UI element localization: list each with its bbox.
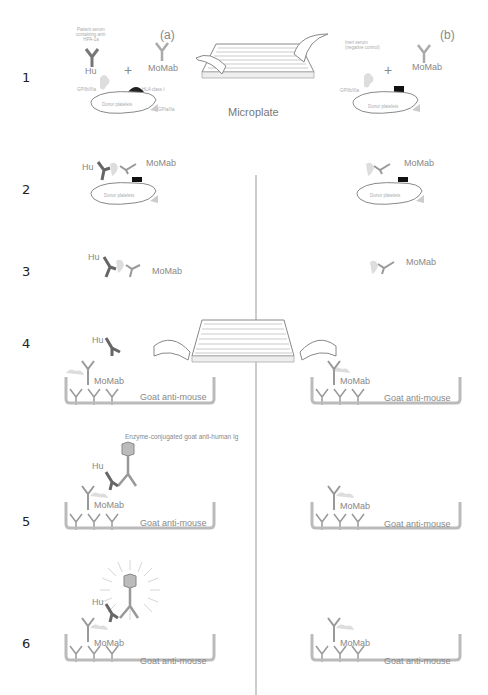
momab-label: MoMab <box>146 158 176 168</box>
inert-serum-label: Inert serum (negative control) <box>345 40 385 50</box>
momab-label: MoMab <box>340 501 370 511</box>
donor-platelets-label: Donor platelets <box>368 104 398 109</box>
goat-anti-mouse-label: Goat anti-mouse <box>140 656 207 666</box>
well-icon <box>308 612 464 662</box>
goat-anti-mouse-label: Goat anti-mouse <box>140 518 207 528</box>
enzyme-conjugate-label: Enzyme-conjugated goat anti-human Ig <box>125 433 238 440</box>
panel-label-b: (b) <box>440 28 455 42</box>
goat-anti-mouse-label: Goat anti-mouse <box>384 656 451 666</box>
donor-platelet-icon <box>88 72 162 114</box>
hu-label: Hu <box>92 461 104 471</box>
donor-platelet-icon <box>354 175 428 205</box>
hu-label: Hu <box>88 252 100 262</box>
step-number-4: 4 <box>22 336 30 351</box>
momab-label: MoMab <box>406 257 436 267</box>
hu-label: Hu <box>92 597 104 607</box>
patient-serum-label: Patient serum containing anti-HPA-1a <box>74 27 108 42</box>
goat-anti-mouse-label: Goat anti-mouse <box>384 519 451 529</box>
arrow-left-icon <box>192 50 232 80</box>
step-number-6: 6 <box>22 636 30 651</box>
mouse-antibody-icon <box>154 42 170 62</box>
momab-label: MoMab <box>340 376 370 386</box>
human-antibody-icon <box>104 336 124 356</box>
donor-platelets-label: Donor platelets <box>370 193 400 198</box>
well-icon <box>62 612 218 662</box>
panel-divider <box>255 175 257 695</box>
momab-label: MoMab <box>94 500 124 510</box>
momab-label: MoMab <box>340 638 370 648</box>
arrow-right-icon <box>292 30 332 60</box>
complex-icon <box>366 258 406 278</box>
momab-label: MoMab <box>94 376 124 386</box>
microplate-label: Microplate <box>228 106 279 118</box>
momab-label: MoMab <box>94 638 124 648</box>
goat-anti-mouse-label: Goat anti-mouse <box>140 392 207 402</box>
step-number-1: 1 <box>22 70 30 85</box>
step-number-2: 2 <box>22 182 30 197</box>
human-antibody-icon <box>84 48 100 68</box>
panel-label-a: (a) <box>160 28 175 42</box>
step-number-5: 5 <box>22 514 30 529</box>
complex-icon <box>100 255 150 285</box>
step-number-3: 3 <box>22 264 30 279</box>
donor-platelets-label: Donor platelets <box>104 193 134 198</box>
mouse-antibody-icon <box>416 44 432 64</box>
goat-anti-mouse-label: Goat anti-mouse <box>384 393 451 403</box>
donor-platelet-icon <box>88 175 162 205</box>
momab-label: MoMab <box>404 158 434 168</box>
hu-label: Hu <box>82 162 94 172</box>
hu-label: Hu <box>92 335 104 345</box>
momab-label: MoMab <box>152 266 182 276</box>
donor-platelets-label: Donor platelets <box>102 102 132 107</box>
